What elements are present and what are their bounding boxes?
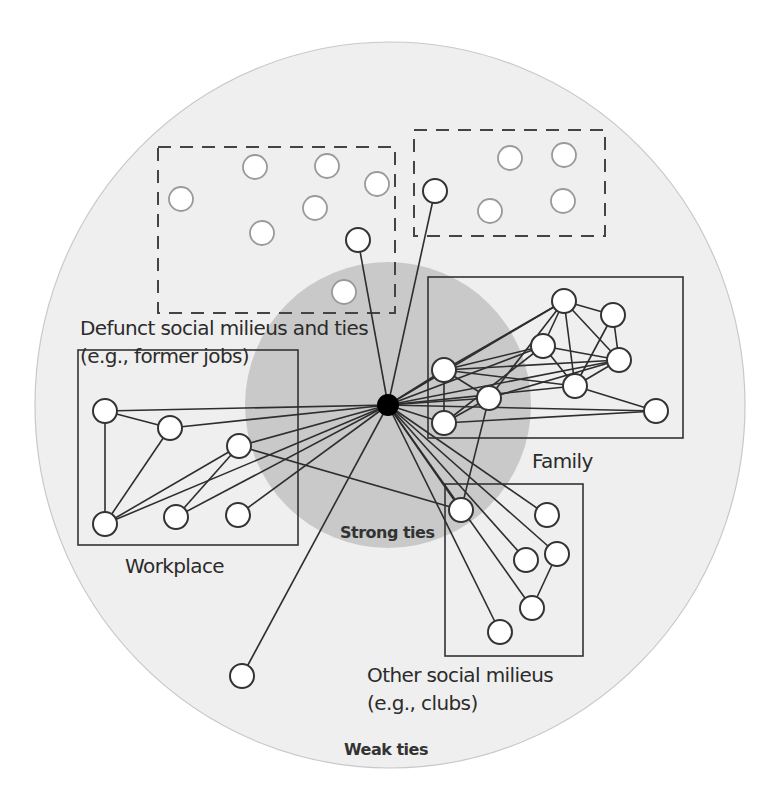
defunct-contact-node xyxy=(169,187,193,211)
workplace-label: Workplace xyxy=(125,554,224,578)
defunct-contact-node xyxy=(551,189,575,213)
workplace-node xyxy=(227,434,251,458)
club-node xyxy=(545,542,569,566)
defunct-contact-node xyxy=(315,154,339,178)
workplace-node xyxy=(164,505,188,529)
club-node xyxy=(520,596,544,620)
strong-ties-label: Strong ties xyxy=(340,523,434,542)
diagram-canvas: Defunct social milieus and ties (e.g., f… xyxy=(0,0,771,797)
family-node xyxy=(607,348,631,372)
defunct-label-line2: (e.g., former jobs) xyxy=(80,344,249,368)
defunct-contact-node xyxy=(332,280,356,304)
workplace-node xyxy=(226,503,250,527)
isolated-contact-node xyxy=(230,664,254,688)
defunct-active-node xyxy=(346,228,370,252)
club-node xyxy=(514,548,538,572)
other-label-line1: Other social milieus xyxy=(367,663,553,687)
family-node xyxy=(563,374,587,398)
defunct-contact-node xyxy=(303,196,327,220)
defunct-contact-node xyxy=(365,172,389,196)
defunct-active-node xyxy=(423,179,447,203)
club-node xyxy=(535,503,559,527)
weak-ties-label: Weak ties xyxy=(344,740,428,759)
workplace-node xyxy=(93,399,117,423)
social-network-diagram: Defunct social milieus and ties (e.g., f… xyxy=(0,0,771,797)
defunct-contact-node xyxy=(498,146,522,170)
defunct-label-line1: Defunct social milieus and ties xyxy=(80,316,368,340)
other-label-line2: (e.g., clubs) xyxy=(367,691,478,715)
family-node xyxy=(432,411,456,435)
family-node xyxy=(552,289,576,313)
defunct-contact-node xyxy=(552,143,576,167)
family-node xyxy=(432,358,456,382)
family-node xyxy=(477,386,501,410)
workplace-node xyxy=(93,512,117,536)
family-node xyxy=(601,303,625,327)
family-node xyxy=(531,334,555,358)
defunct-contact-node xyxy=(250,221,274,245)
defunct-contact-node xyxy=(243,155,267,179)
family-node xyxy=(644,399,668,423)
family-label: Family xyxy=(532,449,594,473)
workplace-node xyxy=(158,416,182,440)
ego-node xyxy=(377,394,399,416)
defunct-contact-node xyxy=(478,199,502,223)
club-node xyxy=(449,498,473,522)
club-node xyxy=(488,620,512,644)
